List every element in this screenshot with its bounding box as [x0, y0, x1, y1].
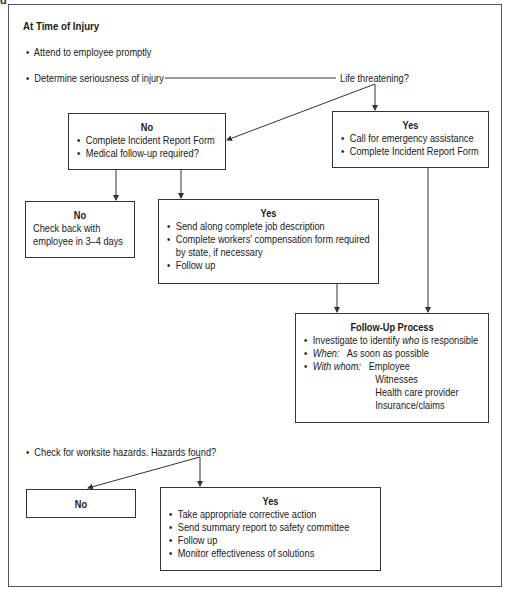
whom-value-line: Insurance/claims	[304, 399, 466, 412]
bullet-attend: • Attend to employee promptly	[26, 46, 151, 59]
box-title: Follow-Up Process	[308, 321, 477, 334]
list-item-continuation: by state, if necessary	[167, 246, 353, 259]
box-no-medical-followup: No Check back with employee in 3–4 days	[25, 201, 135, 258]
investigate-em: who	[402, 334, 419, 346]
list-item: Follow up	[167, 259, 353, 272]
list-item: Follow up	[169, 534, 355, 547]
box-no-hazards: No	[26, 489, 136, 518]
box-title: No	[78, 121, 215, 134]
list-item: Monitor effectiveness of solutions	[169, 547, 355, 560]
list-item: Send along complete job description	[167, 220, 353, 233]
whom-value: Insurance/claims	[313, 399, 466, 412]
list-item: Complete Incident Report Form	[77, 134, 207, 147]
whom-value-line: Health care provider	[304, 386, 466, 399]
box-followup-process: Follow-Up Process Investigate to identif…	[295, 313, 489, 423]
cropped-caption-fragment: g	[0, 0, 8, 4]
box-title: No	[33, 498, 128, 511]
bullet-determine: • Determine seriousness of injury	[26, 72, 164, 85]
investigate-post: is responsible	[419, 334, 478, 346]
box-title: Yes	[172, 207, 365, 220]
box-title: Yes	[342, 119, 478, 132]
bullet-attend-text: Attend to employee promptly	[34, 46, 152, 58]
box-life-threatening: Yes Call for emergency assistance Comple…	[332, 111, 489, 168]
bullet-check-hazards-text: Check for worksite hazards. Hazards foun…	[34, 446, 216, 458]
box-title: No	[32, 209, 127, 222]
box-title: Yes	[174, 495, 367, 508]
list-item: Complete Incident Report Form	[341, 145, 470, 158]
box-yes-medical-followup: Yes Send along complete job description …	[158, 199, 379, 284]
list-item: Take appropriate corrective action	[169, 508, 355, 521]
whom-label: With whom:	[313, 360, 361, 372]
whom-value: Witnesses	[313, 373, 466, 386]
investigate-pre: Investigate to identify	[313, 334, 402, 346]
list-item-with-whom: With whom: Employee	[304, 360, 466, 373]
whom-value-line: Witnesses	[304, 373, 466, 386]
bullet-check-hazards: • Check for worksite hazards. Hazards fo…	[26, 446, 216, 459]
box-not-life-threatening: No Complete Incident Report Form Medical…	[68, 113, 226, 170]
list-item: Call for emergency assistance	[341, 132, 470, 145]
when-label: When:	[313, 347, 340, 359]
list-item: Medical follow-up required?	[77, 147, 207, 160]
list-item: Send summary report to safety committee	[169, 521, 355, 534]
decision-life-threatening: Life threatening?	[340, 72, 409, 85]
list-item-when: When: As soon as possible	[304, 347, 466, 360]
section-heading: At Time of Injury	[23, 20, 99, 33]
box-text-line: employee in 3–4 days	[26, 235, 121, 248]
list-item-investigate: Investigate to identify who is responsib…	[304, 334, 466, 347]
whom-value: Employee	[369, 360, 410, 372]
box-text-line: Check back with	[26, 222, 121, 235]
when-value: As soon as possible	[347, 347, 429, 359]
whom-value: Health care provider	[313, 386, 466, 399]
list-item: Complete workers' compensation form requ…	[167, 233, 353, 246]
bullet-determine-text: Determine seriousness of injury	[34, 72, 163, 84]
box-hazards-found: Yes Take appropriate corrective action S…	[160, 487, 381, 571]
